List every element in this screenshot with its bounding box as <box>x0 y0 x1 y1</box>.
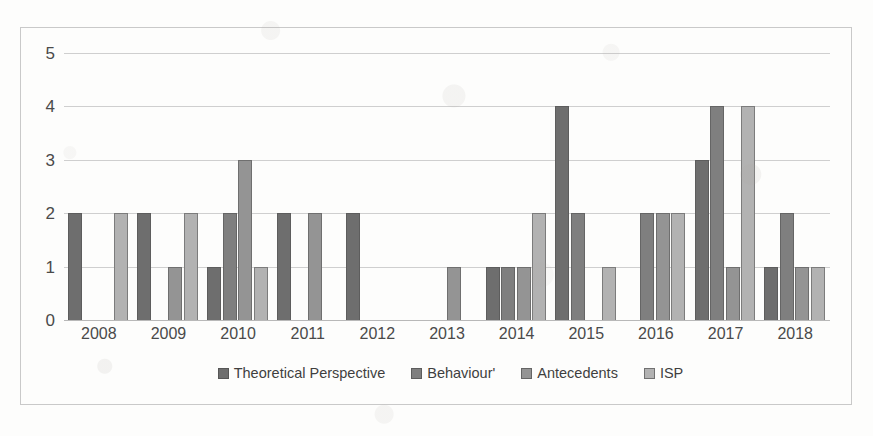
y-axis-label-2: 2 <box>46 205 55 222</box>
bar-2010-behaviour <box>223 213 237 320</box>
x-axis-label-2014: 2014 <box>499 325 535 343</box>
bar-2017-theoretical-perspective <box>695 160 709 320</box>
bar-2014-isp <box>532 213 546 320</box>
x-axis-label-2013: 2013 <box>429 325 465 343</box>
bar-2013-antecedents <box>447 267 461 320</box>
bar-2012-theoretical-perspective <box>346 213 360 320</box>
bar-2011-antecedents <box>308 213 322 320</box>
bar-2017-antecedents <box>726 267 740 320</box>
bar-2014-behaviour <box>501 267 515 320</box>
legend-item-theoretical-perspective[interactable]: Theoretical Perspective <box>218 365 386 381</box>
bar-2017-isp <box>741 106 755 320</box>
chart-frame: 012345 200820092010201120122013201420152… <box>20 27 852 405</box>
y-axis-label-5: 5 <box>46 45 55 62</box>
x-axis-ticks: 2008200920102011201220132014201520162017… <box>64 325 830 351</box>
bar-2010-antecedents <box>238 160 252 320</box>
bars-layer <box>64 53 830 320</box>
y-axis-label-3: 3 <box>46 151 55 168</box>
legend-item-isp[interactable]: ISP <box>644 365 683 381</box>
bar-2018-theoretical-perspective <box>764 267 778 320</box>
y-axis-label-0: 0 <box>46 312 55 329</box>
legend-item-antecedents[interactable]: Antecedents <box>521 365 618 381</box>
x-axis-label-2009: 2009 <box>151 325 187 343</box>
legend-swatch-icon <box>218 368 229 379</box>
legend-item-label: Behaviour' <box>427 365 495 381</box>
x-axis-label-2010: 2010 <box>220 325 256 343</box>
bar-2017-behaviour <box>710 106 724 320</box>
legend-item-label: ISP <box>660 365 683 381</box>
bar-2015-isp <box>602 267 616 320</box>
x-axis-label-2016: 2016 <box>638 325 674 343</box>
x-axis-label-2008: 2008 <box>81 325 117 343</box>
bar-2018-behaviour <box>780 213 794 320</box>
x-axis-label-2018: 2018 <box>777 325 813 343</box>
legend-item-behaviour[interactable]: Behaviour' <box>411 365 495 381</box>
x-axis-label-2017: 2017 <box>708 325 744 343</box>
bar-2015-theoretical-perspective <box>555 106 569 320</box>
x-axis-label-2011: 2011 <box>291 325 325 343</box>
bar-2011-theoretical-perspective <box>277 213 291 320</box>
x-axis-label-2015: 2015 <box>568 325 604 343</box>
bar-2010-theoretical-perspective <box>207 267 221 320</box>
legend-swatch-icon <box>411 368 422 379</box>
legend-swatch-icon <box>521 368 532 379</box>
bar-2016-isp <box>671 213 685 320</box>
gridline-0 <box>64 320 830 321</box>
bar-2014-theoretical-perspective <box>486 267 500 320</box>
x-axis-label-2012: 2012 <box>360 325 396 343</box>
bar-2018-isp <box>811 267 825 320</box>
bar-2015-behaviour <box>571 213 585 320</box>
y-axis-label-4: 4 <box>46 98 55 115</box>
bar-2008-isp <box>114 213 128 320</box>
bar-2008-theoretical-perspective <box>68 213 82 320</box>
legend-item-label: Theoretical Perspective <box>234 365 386 381</box>
plot-area: 012345 <box>64 53 830 320</box>
legend-item-label: Antecedents <box>537 365 618 381</box>
bar-2010-isp <box>254 267 268 320</box>
bar-2014-antecedents <box>517 267 531 320</box>
bar-2009-theoretical-perspective <box>137 213 151 320</box>
legend-swatch-icon <box>644 368 655 379</box>
bar-2009-antecedents <box>168 267 182 320</box>
bar-2016-behaviour <box>640 213 654 320</box>
chart-legend: Theoretical PerspectiveBehaviour'Anteced… <box>64 365 837 381</box>
bar-2018-antecedents <box>795 267 809 320</box>
bar-2016-antecedents <box>656 213 670 320</box>
y-axis-label-1: 1 <box>46 258 55 275</box>
bar-2009-isp <box>184 213 198 320</box>
